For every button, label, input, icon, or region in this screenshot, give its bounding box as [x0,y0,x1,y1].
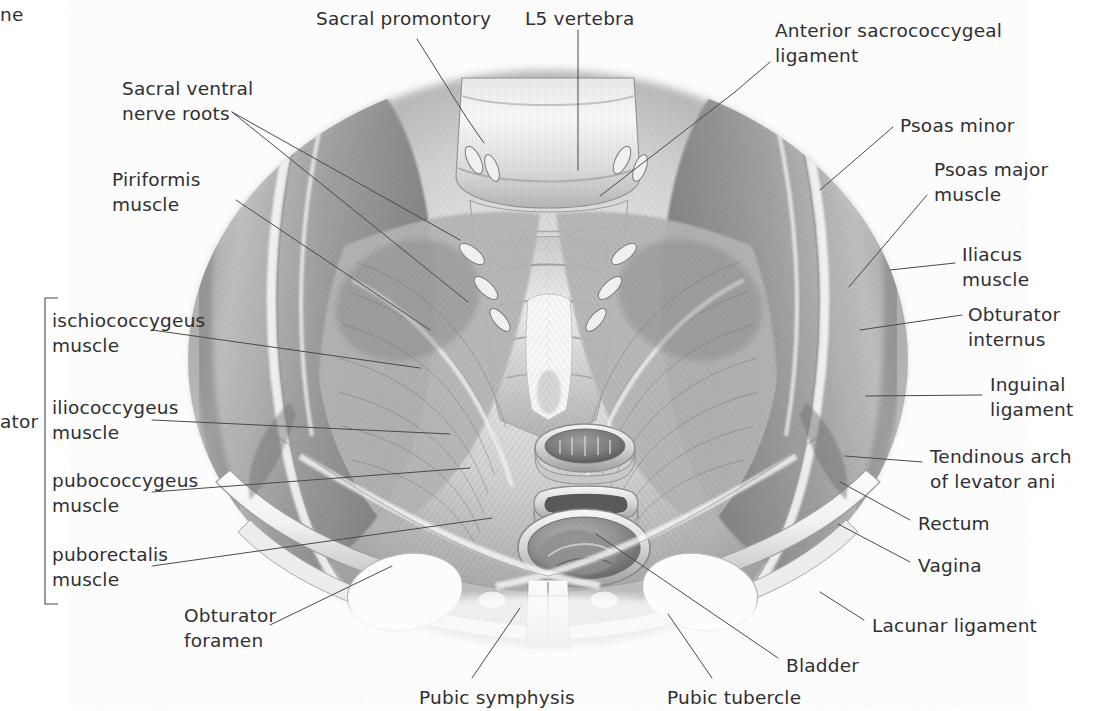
label-pubic-tubercle-line1: Pubic tubercle [667,687,801,708]
label-rectum: Rectum [918,511,990,536]
label-obturator-foramen: Obturatorforamen [184,603,276,653]
label-bladder: Bladder [786,653,859,678]
label-psoas-major-muscle-line2: muscle [934,184,1001,205]
label-inguinal-ligament: Inguinalligament [990,372,1073,422]
label-bladder-line1: Bladder [786,655,859,676]
label-anterior-sacrococcygeal-ligament-line1: Anterior sacrococcygeal [775,20,1002,41]
label-l5-vertebra: L5 vertebra [525,6,634,31]
label-piriformis-muscle-line1: Piriformis [112,169,201,190]
label-psoas-minor: Psoas minor [900,113,1015,138]
anatomical-plate: Sacral promontoryL5 vertebraAnterior sac… [0,0,1095,711]
label-pubic-symphysis-line1: Pubic symphysis [419,687,575,708]
label-psoas-major-muscle: Psoas majormuscle [934,157,1048,207]
label-l5-vertebra-line1: L5 vertebra [525,8,634,29]
label-vagina: Vagina [918,553,982,578]
label-sacral-promontory: Sacral promontory [316,6,491,31]
label-iliococcygeus-muscle-line1: iliococcygeus [52,397,179,418]
clipped-top-left-text: ne [0,2,24,27]
label-lacunar-ligament: Lacunar ligament [872,613,1037,638]
label-psoas-minor-line1: Psoas minor [900,115,1015,136]
label-piriformis-muscle-line2: muscle [112,194,179,215]
label-puborectalis-muscle-line1: puborectalis [52,544,168,565]
label-pubic-symphysis: Pubic symphysis [419,685,575,710]
label-sacral-promontory-line1: Sacral promontory [316,8,491,29]
label-anterior-sacrococcygeal-ligament-line2: ligament [775,45,858,66]
label-tendinous-arch-of-levator-ani: Tendinous archof levator ani [930,444,1072,494]
label-pubococcygeus-muscle-line1: pubococcygeus [52,470,198,491]
label-pubococcygeus-muscle-line2: muscle [52,495,119,516]
label-lacunar-ligament-line1: Lacunar ligament [872,615,1037,636]
label-obturator-internus-line2: internus [968,329,1045,350]
label-psoas-major-muscle-line1: Psoas major [934,159,1048,180]
label-puborectalis-muscle: puborectalismuscle [52,542,168,592]
label-rectum-line1: Rectum [918,513,990,534]
label-obturator-foramen-line2: foramen [184,630,263,651]
clipped-left-text: ator [0,409,38,434]
label-anterior-sacrococcygeal-ligament: Anterior sacrococcygealligament [775,18,1002,68]
label-obturator-internus-line1: Obturator [968,304,1060,325]
label-puborectalis-muscle-line2: muscle [52,569,119,590]
label-vagina-line1: Vagina [918,555,982,576]
label-ischiococcygeus-muscle-line1: ischiococcygeus [52,310,205,331]
label-tendinous-arch-of-levator-ani-line2: of levator ani [930,471,1056,492]
label-sacral-ventral-nerve-roots-line2: nerve roots [122,103,230,124]
label-pubococcygeus-muscle: pubococcygeusmuscle [52,468,198,518]
label-pubic-tubercle: Pubic tubercle [667,685,801,710]
label-ischiococcygeus-muscle: ischiococcygeusmuscle [52,308,205,358]
label-sacral-ventral-nerve-roots: Sacral ventralnerve roots [122,76,253,126]
label-sacral-ventral-nerve-roots-line1: Sacral ventral [122,78,253,99]
label-tendinous-arch-of-levator-ani-line1: Tendinous arch [930,446,1072,467]
label-iliacus-muscle-line1: Iliacus [962,244,1022,265]
label-obturator-foramen-line1: Obturator [184,605,276,626]
label-ischiococcygeus-muscle-line2: muscle [52,335,119,356]
label-piriformis-muscle: Piriformismuscle [112,167,201,217]
label-inguinal-ligament-line1: Inguinal [990,374,1066,395]
label-iliacus-muscle: Iliacusmuscle [962,242,1029,292]
label-iliacus-muscle-line2: muscle [962,269,1029,290]
label-obturator-internus: Obturatorinternus [968,302,1060,352]
label-inguinal-ligament-line2: ligament [990,399,1073,420]
label-iliococcygeus-muscle-line2: muscle [52,422,119,443]
label-iliococcygeus-muscle: iliococcygeusmuscle [52,395,179,445]
